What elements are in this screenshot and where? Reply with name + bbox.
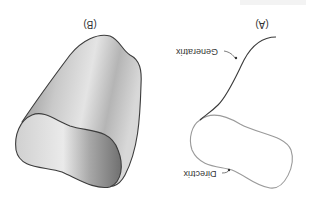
- directrix-arrowhead: [228, 169, 230, 171]
- directrix-label: Directrix: [183, 169, 216, 179]
- panel-b-surface: [16, 35, 142, 187]
- callout-leaders: [222, 51, 237, 173]
- ruled-surface-figure: (B) (A) Generatrix Directrix: [0, 0, 311, 198]
- generatrix-leader: [224, 51, 235, 58]
- generatrix-arrowhead: [235, 57, 237, 59]
- panel-a-label: (A): [255, 19, 268, 30]
- panel-a-curves: [190, 37, 292, 188]
- panel-b-label: (B): [83, 19, 96, 30]
- generatrix-label: Generatrix: [175, 47, 218, 57]
